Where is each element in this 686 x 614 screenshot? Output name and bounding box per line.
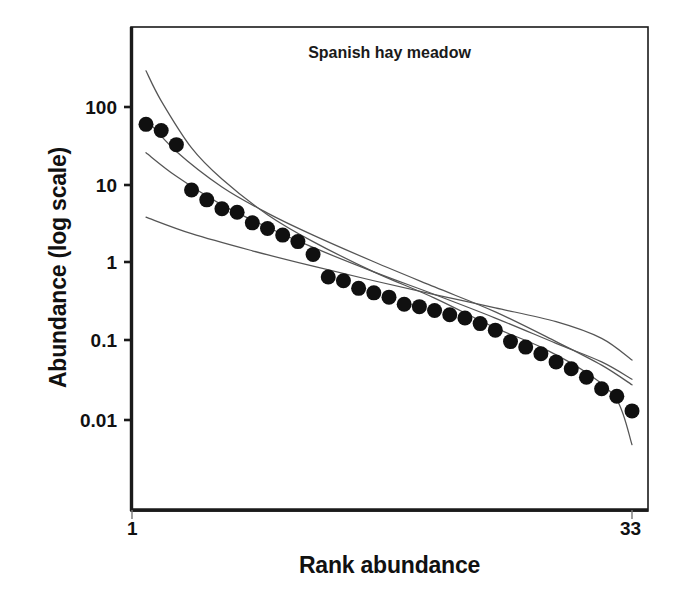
data-point [260,221,275,236]
data-point [503,334,518,349]
data-point [184,182,199,197]
data-point [139,117,154,132]
data-point [169,137,184,152]
data-point [594,381,609,396]
y-tick-label-0.01: 0.01 [80,411,117,430]
data-point [290,234,305,249]
data-point [579,370,594,385]
data-point [488,323,503,338]
data-point [564,361,579,376]
fitted-curve-1 [146,71,632,445]
data-point [336,273,351,288]
y-tick-label-1: 1 [106,253,117,272]
data-point [245,215,260,230]
x-tick-label-1: 1 [127,519,138,538]
data-point [306,247,321,262]
y-axis-tick-labels: 100 10 1 0.1 0.01 [0,0,117,614]
data-point [199,192,214,207]
data-point [549,354,564,369]
data-point [382,290,397,305]
x-axis-title: Rank abundance [131,552,648,579]
data-point [457,311,472,326]
data-point [321,270,336,285]
data-point [154,123,169,138]
data-point [351,281,366,296]
x-tick-label-33: 33 [620,519,641,538]
y-tick-label-0.1: 0.1 [91,331,117,350]
fitted-curve-3 [146,153,632,380]
data-point [427,303,442,318]
data-point [275,228,290,243]
y-tick-label-100: 100 [85,98,117,117]
data-point [230,205,245,220]
plot-title: Spanish hay meadow [131,44,648,62]
data-point [473,316,488,331]
data-point [442,307,457,322]
data-point [533,346,548,361]
data-point [366,285,381,300]
data-point [609,389,624,404]
data-point [214,201,229,216]
y-tick-label-10: 10 [96,176,117,195]
data-point [625,403,640,418]
fitted-model-curves [146,71,632,445]
fitted-curve-4 [146,217,632,360]
data-point [412,299,427,314]
data-point [397,297,412,312]
chart-figure: Abundance (log scale) 100 10 1 0.1 0.01 … [0,0,686,614]
data-point [518,340,533,355]
